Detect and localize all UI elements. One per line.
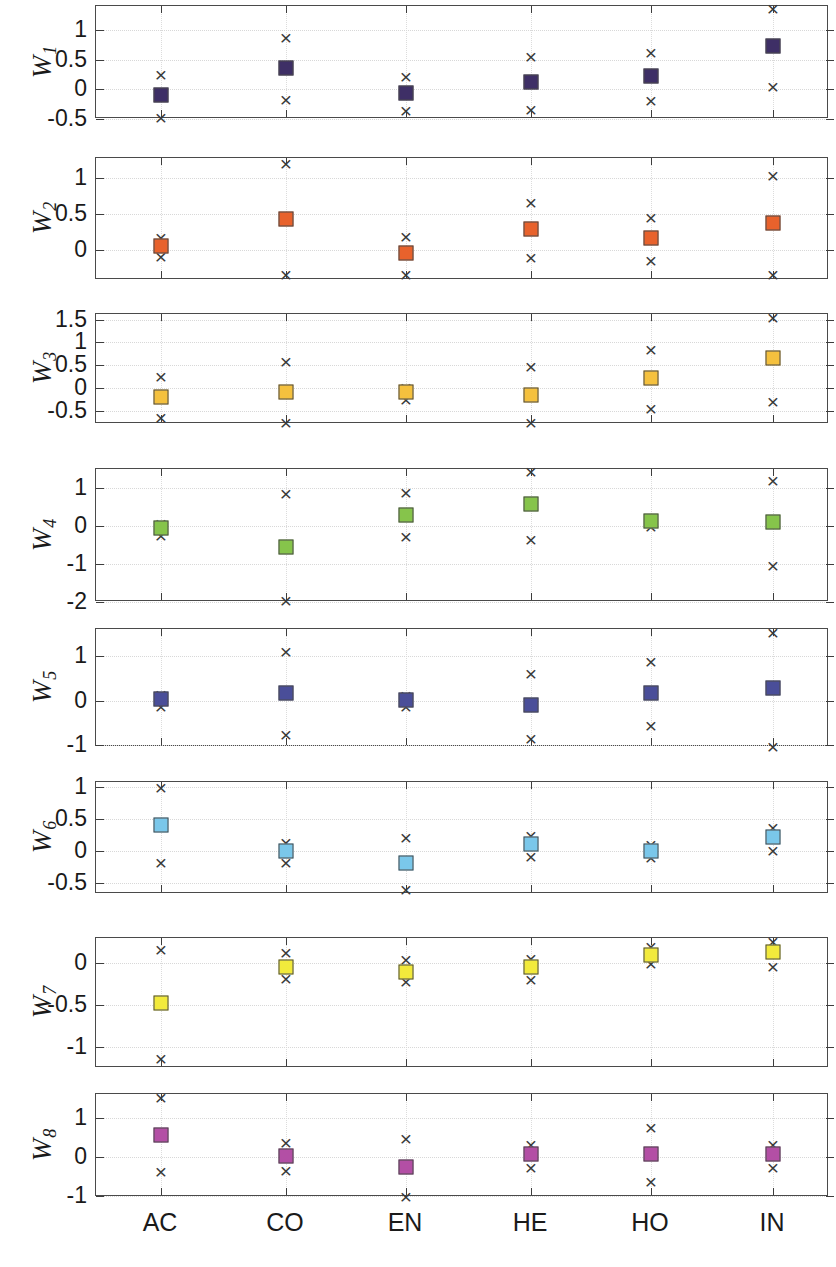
upper-range-marker: ×	[155, 63, 167, 84]
data-point-marker	[524, 496, 539, 511]
y-tick-mark	[96, 1005, 104, 1006]
y-tick-label: 1	[74, 166, 87, 189]
x-tick-mark	[773, 1094, 774, 1101]
lower-range-marker: ×	[767, 75, 779, 96]
upper-range-marker: ×	[645, 206, 657, 227]
x-tick-mark	[773, 782, 774, 789]
panel-w5: W5××××××××××××-101	[0, 628, 836, 746]
x-tick-mark	[406, 938, 407, 945]
y-tick-mark	[96, 1157, 104, 1158]
horizontal-gridline	[96, 602, 827, 603]
data-point-marker	[766, 681, 781, 696]
horizontal-gridline	[96, 1157, 827, 1158]
upper-range-marker: ×	[645, 42, 657, 63]
x-tick-mark	[286, 110, 287, 117]
x-tick-mark	[531, 629, 532, 636]
plot-area-w5: ××××××××××××	[95, 628, 828, 746]
x-axis-label-ho: HO	[631, 1210, 669, 1235]
x-tick-mark	[406, 1059, 407, 1066]
data-point-marker	[644, 514, 659, 529]
lower-range-marker: ×	[155, 406, 167, 427]
y-tick-mark	[826, 30, 834, 31]
x-tick-mark	[773, 1188, 774, 1195]
lower-range-marker: ×	[280, 411, 292, 432]
lower-range-marker: ×	[400, 263, 412, 284]
upper-range-marker: ×	[280, 483, 292, 504]
y-axis-ticks-w8: -101	[0, 1093, 95, 1196]
y-tick-mark	[826, 488, 834, 489]
upper-range-marker: ×	[767, 306, 779, 327]
upper-range-marker: ×	[280, 153, 292, 174]
y-axis-ticks-w4: -2-101	[0, 468, 95, 601]
y-tick-mark	[96, 214, 104, 215]
x-tick-mark	[651, 782, 652, 789]
x-tick-mark	[531, 1094, 532, 1101]
horizontal-gridline	[96, 320, 827, 321]
upper-range-marker: ×	[400, 66, 412, 87]
x-axis-category-labels: ACCOENHEHOIN	[0, 1210, 836, 1250]
data-point-marker	[399, 508, 414, 523]
y-tick-mark	[96, 851, 104, 852]
data-point-marker	[524, 222, 539, 237]
y-tick-label: -1	[67, 552, 87, 575]
data-point-marker	[644, 370, 659, 385]
data-point-marker	[154, 995, 169, 1010]
data-point-marker	[644, 230, 659, 245]
x-tick-mark	[406, 629, 407, 636]
panel-w8: W8××××××××××××-101	[0, 1093, 836, 1196]
y-tick-mark	[96, 526, 104, 527]
upper-range-marker: ×	[767, 164, 779, 185]
upper-range-marker: ×	[525, 461, 537, 482]
y-tick-label: 1	[74, 330, 87, 353]
y-tick-mark	[826, 656, 834, 657]
y-tick-label: 0.5	[55, 806, 87, 829]
y-tick-label: 0.5	[55, 201, 87, 224]
data-point-marker	[154, 692, 169, 707]
figure-canvas: W1××××××××××××-0.500.51W2××××××××××××00.…	[0, 0, 836, 1267]
horizontal-gridline	[96, 656, 827, 657]
x-tick-mark	[161, 6, 162, 13]
x-axis-label-ac: AC	[143, 1210, 178, 1235]
y-tick-mark	[96, 1196, 104, 1197]
y-tick-label: 1.5	[55, 307, 87, 330]
plot-area-w4: ××××××××××××	[95, 468, 828, 601]
x-tick-mark	[773, 415, 774, 422]
upper-range-marker: ×	[280, 351, 292, 372]
y-tick-label: -0.5	[47, 399, 87, 422]
y-tick-label: -1	[67, 1035, 87, 1058]
y-tick-mark	[826, 745, 834, 746]
x-tick-mark	[286, 629, 287, 636]
data-point-marker	[524, 959, 539, 974]
data-point-marker	[399, 964, 414, 979]
data-point-marker	[279, 844, 294, 859]
x-tick-mark	[531, 593, 532, 600]
x-tick-mark	[406, 782, 407, 789]
lower-range-marker: ×	[525, 99, 537, 120]
plot-area-w8: ××××××××××××	[95, 1093, 828, 1196]
data-point-marker	[154, 389, 169, 404]
data-point-marker	[766, 215, 781, 230]
data-point-marker	[279, 384, 294, 399]
data-point-marker	[766, 945, 781, 960]
x-tick-mark	[651, 738, 652, 745]
panel-w7: W7××××××××××××-1-0.50	[0, 937, 836, 1067]
data-point-marker	[399, 855, 414, 870]
y-tick-mark	[826, 963, 834, 964]
horizontal-gridline	[96, 883, 827, 884]
horizontal-gridline	[96, 365, 827, 366]
x-tick-mark	[531, 314, 532, 321]
data-point-marker	[154, 520, 169, 535]
y-tick-label: 0	[74, 688, 87, 711]
lower-range-marker: ×	[525, 247, 537, 268]
y-tick-mark	[96, 320, 104, 321]
panel-w2: W2××××××××××××00.51	[0, 157, 836, 279]
upper-range-marker: ×	[645, 650, 657, 671]
y-tick-mark	[96, 1047, 104, 1048]
y-tick-mark	[826, 1157, 834, 1158]
y-tick-label: 0	[74, 237, 87, 260]
x-tick-mark	[406, 593, 407, 600]
x-axis-label-in: IN	[760, 1210, 785, 1235]
plot-area-w2: ××××××××××××	[95, 157, 828, 279]
lower-range-marker: ×	[525, 728, 537, 749]
data-point-marker	[644, 947, 659, 962]
